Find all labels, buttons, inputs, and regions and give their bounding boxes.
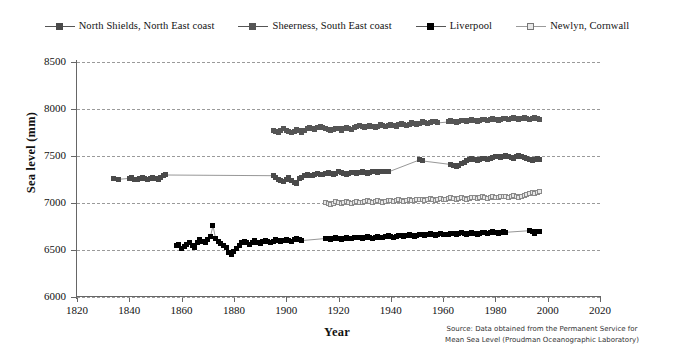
- legend-marker-icon: [416, 21, 446, 31]
- data-point-marker: [537, 189, 542, 194]
- x-axis-tick: [600, 297, 601, 302]
- legend-label: North Shields, North East coast: [79, 21, 215, 32]
- data-point-marker: [537, 157, 542, 162]
- data-point-marker: [420, 158, 425, 163]
- data-point-marker: [537, 229, 542, 234]
- data-point-marker: [163, 172, 168, 177]
- x-axis-label: 1880: [212, 305, 256, 316]
- x-axis-label: 1840: [107, 305, 151, 316]
- x-axis-label: 1940: [369, 305, 413, 316]
- legend-item[interactable]: Sheerness, South East coast: [238, 21, 391, 32]
- data-point-marker: [294, 181, 299, 186]
- source-note: Source: Data obtained from the Permanent…: [422, 324, 662, 345]
- y-axis-label: 8500: [22, 56, 66, 67]
- data-point-marker: [299, 238, 304, 243]
- legend-label: Newlyn, Cornwall: [550, 21, 629, 32]
- legend-label: Liverpool: [450, 21, 492, 32]
- x-axis-label: 1960: [421, 305, 465, 316]
- x-axis-label: 2020: [578, 305, 622, 316]
- data-point-marker: [210, 223, 215, 228]
- data-point-marker: [537, 117, 542, 122]
- data-point-marker: [224, 245, 229, 250]
- x-axis-label: 2000: [526, 305, 570, 316]
- x-axis-label: 1820: [55, 305, 99, 316]
- y-axis-label: 6500: [22, 244, 66, 255]
- gridline: [77, 297, 600, 298]
- legend-item[interactable]: Liverpool: [416, 21, 492, 32]
- x-axis-label: 1920: [317, 305, 361, 316]
- data-point-marker: [192, 245, 197, 250]
- y-axis-title: Sea level (mm): [24, 73, 39, 233]
- data-point-marker: [386, 169, 391, 174]
- y-axis-label: 6000: [22, 291, 66, 302]
- x-axis-label: 1980: [473, 305, 517, 316]
- legend-marker-icon: [45, 21, 75, 31]
- x-axis-label: 1860: [160, 305, 204, 316]
- legend-item[interactable]: Newlyn, Cornwall: [516, 21, 629, 32]
- data-point-marker: [435, 120, 440, 125]
- chart-legend: North Shields, North East coastSheerness…: [0, 16, 674, 36]
- legend-marker-icon: [238, 21, 268, 31]
- data-point-marker: [503, 230, 508, 235]
- plot-area: [77, 62, 600, 297]
- data-point-marker: [116, 177, 121, 182]
- legend-label: Sheerness, South East coast: [272, 21, 391, 32]
- legend-marker-icon: [516, 21, 546, 31]
- legend-item[interactable]: North Shields, North East coast: [45, 21, 215, 32]
- source-line-2: Mean Sea Level (Proudman Oceanographic L…: [422, 335, 662, 346]
- x-axis-label: 1900: [264, 305, 308, 316]
- source-line-1: Source: Data obtained from the Permanent…: [422, 324, 662, 335]
